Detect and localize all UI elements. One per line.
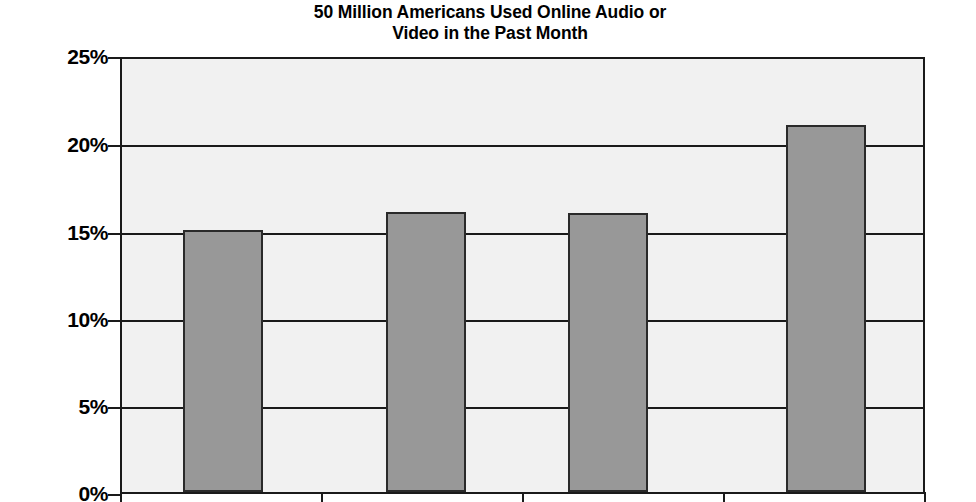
bar-2 bbox=[386, 212, 466, 492]
y-axis-tick-group bbox=[0, 57, 130, 494]
chart-title: 50 Million Americans Used Online Audio o… bbox=[120, 2, 860, 44]
x-tick-mark-2 bbox=[522, 492, 524, 502]
x-tick-mark-4 bbox=[924, 492, 926, 502]
plot-area bbox=[120, 57, 925, 494]
bar-chart-figure: 50 Million Americans Used Online Audio o… bbox=[0, 0, 976, 502]
x-tick-mark-1 bbox=[321, 492, 323, 502]
x-tick-mark-3 bbox=[723, 492, 725, 502]
bar-1 bbox=[183, 230, 263, 492]
bar-3 bbox=[568, 213, 648, 492]
bar-4 bbox=[786, 125, 866, 492]
x-tick-mark-0 bbox=[120, 492, 122, 502]
